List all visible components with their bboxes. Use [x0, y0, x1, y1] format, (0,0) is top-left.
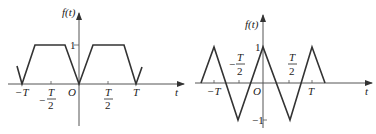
right-xlabel: t [365, 85, 369, 97]
left-xtick-T: T [133, 86, 140, 98]
right-origin-label: O [253, 85, 261, 97]
svg-text:2: 2 [48, 99, 54, 111]
right-xtick-neg-half-label: − T 2 [229, 51, 245, 77]
svg-text:−: − [39, 94, 45, 106]
svg-text:2: 2 [289, 65, 295, 77]
svg-text:T: T [237, 51, 244, 63]
right-graph: f(t) 1 −1 −T − T 2 O T 2 T t [195, 15, 372, 128]
right-ylabel: f(t) [245, 18, 259, 31]
right-xtick-T-label: T [308, 85, 315, 97]
left-xtick-neg-half-label: − T 2 [39, 86, 56, 111]
svg-text:T: T [105, 86, 112, 98]
left-ylabel: f(t) [62, 6, 76, 19]
left-xtick-neg-T: −T [15, 86, 29, 98]
right-xtick-neg-T-label: −T [207, 85, 221, 97]
left-graph: f(t) 1 −T − T 2 O T 2 T t [8, 6, 184, 126]
left-xlabel: t [175, 86, 179, 98]
figure-canvas: f(t) 1 −T − T 2 O T 2 T t f(t) 1 −1 −T [0, 0, 376, 134]
svg-text:−: − [229, 58, 235, 70]
svg-text:2: 2 [237, 65, 243, 77]
svg-text:2: 2 [105, 99, 111, 111]
left-xtick-half-label: T 2 [104, 86, 113, 111]
svg-text:T: T [289, 51, 296, 63]
left-ytick-label: 1 [70, 39, 76, 51]
svg-text:T: T [48, 86, 55, 98]
left-origin-label: O [68, 86, 76, 98]
right-ytick-neg1-label: −1 [252, 114, 264, 126]
right-ytick-1: 1 [255, 41, 261, 53]
right-xtick-half-label: T 2 [288, 51, 297, 77]
